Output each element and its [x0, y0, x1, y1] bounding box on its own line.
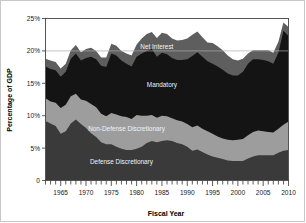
y-tick-label: 5%: [30, 145, 40, 152]
y-tick-labels-group: 05%10%15%20%25%: [27, 15, 41, 184]
chart-svg: 05%10%15%20%25% 196519701975198019851990…: [0, 0, 306, 223]
x-tick-label: 1980: [129, 189, 144, 196]
y-tick-label: 15%: [27, 80, 40, 87]
x-axis-title: Fiscal Year: [148, 210, 185, 217]
y-axis-title: Percentage of GDP: [6, 68, 14, 132]
x-tick-label: 2000: [231, 189, 246, 196]
x-tick-label: 1975: [104, 189, 119, 196]
x-tick-label: 1990: [180, 189, 195, 196]
x-tick-label: 2010: [281, 189, 296, 196]
x-tick-label: 1985: [155, 189, 170, 196]
x-tick-label: 1970: [79, 189, 94, 196]
series-label-defense-discretionary: Defense Discretionary: [90, 158, 154, 166]
y-tick-label: 25%: [27, 15, 40, 22]
x-tick-labels-group: 1965197019751980198519901995200020052010: [53, 189, 296, 196]
series-label-net-interest: Net Interest: [140, 43, 173, 50]
y-tick-label: 0: [36, 177, 40, 184]
y-tick-label: 20%: [27, 47, 40, 54]
x-tick-label: 1965: [53, 189, 68, 196]
stacked-area-chart: 05%10%15%20%25% 196519701975198019851990…: [0, 0, 306, 223]
y-tick-label: 10%: [27, 112, 40, 119]
series-label-mandatory: Mandatory: [147, 81, 178, 89]
x-tick-label: 2005: [256, 189, 271, 196]
series-label-non-defense-discretionary: Non-Defense Discretionary: [88, 125, 166, 133]
x-tick-label: 1995: [205, 189, 220, 196]
